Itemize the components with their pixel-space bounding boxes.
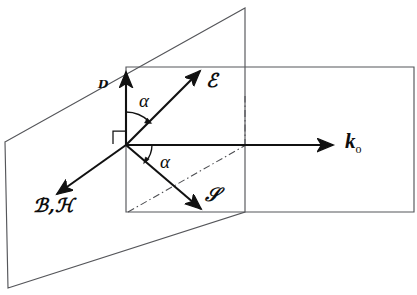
label-bh-vector: ℬ,ℋ (33, 196, 74, 215)
right-angle-marker (113, 131, 126, 144)
auxiliary-construction-lines (128, 96, 246, 212)
label-k0-vector: ko (345, 131, 362, 155)
slanted-plane-outline (5, 8, 245, 288)
right-angle-square (113, 131, 126, 144)
figure-root: ᴰ ℰ ℬ,ℋ 𝒮 ko α α (0, 0, 417, 295)
vector-bh-magnetic (57, 145, 126, 194)
label-angle-upper: α (139, 91, 149, 110)
label-k0-subscript: o (356, 142, 362, 156)
label-angle-lower: α (160, 152, 170, 171)
diagonal-dashdot-line (128, 145, 246, 212)
slanted-plane (5, 8, 245, 288)
vector-e-electric (126, 71, 200, 145)
label-e-vector: ℰ (206, 71, 218, 90)
label-s-vector: 𝒮 (205, 185, 220, 204)
horizontal-plane (126, 67, 414, 212)
horizontal-plane-outline (126, 67, 414, 212)
label-k0-base: k (345, 129, 356, 153)
label-d-vector: ᴰ (98, 78, 109, 97)
